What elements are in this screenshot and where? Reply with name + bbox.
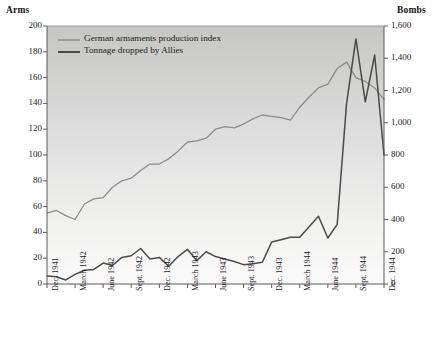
plot-area (0, 0, 432, 350)
x-tick-label: June 1944 (331, 258, 340, 291)
x-tick-label: Sept. 1944 (359, 256, 368, 291)
left-tick-label: 0 (2, 278, 42, 288)
plot-background (47, 26, 384, 284)
x-tick-label: June 1943 (219, 258, 228, 291)
left-tick-label: 120 (2, 123, 42, 133)
left-tick-label: 140 (2, 97, 42, 107)
x-tick-label: June 1942 (107, 258, 116, 291)
x-tick-label: March 1942 (79, 251, 88, 291)
x-tick-label: Dec. 1942 (163, 257, 172, 291)
left-tick-label: 100 (2, 149, 42, 159)
x-tick-label: March 1943 (191, 251, 200, 291)
right-tick-label: 1,000 (391, 117, 411, 127)
left-tick-label: 160 (2, 72, 42, 82)
x-tick-label: Dec. 1944 (388, 257, 397, 291)
left-tick-label: 60 (2, 201, 42, 211)
x-tick-label: Sept. 1942 (135, 256, 144, 291)
right-tick-label: 1,600 (391, 20, 411, 30)
left-tick-label: 20 (2, 252, 42, 262)
x-tick-label: Sept. 1943 (247, 256, 256, 291)
right-tick-label: 600 (391, 181, 405, 191)
left-tick-label: 80 (2, 175, 42, 185)
x-tick-label: Dec. 1943 (275, 257, 284, 291)
right-tick-label: 1,200 (391, 85, 411, 95)
legend-label-armaments: German armaments production index (84, 33, 221, 43)
left-tick-label: 180 (2, 46, 42, 56)
right-tick-label: 400 (391, 214, 405, 224)
right-tick-label: 800 (391, 149, 405, 159)
legend-label-tonnage: Tonnage dropped by Allies (84, 45, 183, 55)
chart-container: Arms Bombs 020406080100120140160180200 0… (0, 0, 432, 350)
right-tick-label: 1,400 (391, 52, 411, 62)
x-tick-label: Dec. 1941 (51, 257, 60, 291)
right-tick-label: 200 (391, 246, 405, 256)
left-tick-label: 40 (2, 226, 42, 236)
left-tick-label: 200 (2, 20, 42, 30)
x-tick-label: March 1944 (303, 251, 312, 291)
